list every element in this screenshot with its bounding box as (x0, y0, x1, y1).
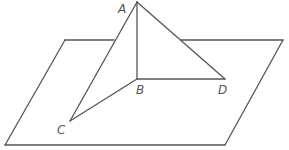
label-d: D (218, 83, 227, 97)
plane-right-edge (225, 40, 283, 145)
label-c: C (57, 123, 66, 137)
labels: A B C D (57, 2, 227, 137)
label-b: B (136, 83, 144, 97)
segment-ac (70, 2, 137, 121)
label-a: A (117, 2, 126, 16)
segments (70, 2, 225, 121)
diagram-svg: A B C D (0, 0, 289, 150)
diagram-canvas: A B C D (0, 0, 289, 150)
plane-left-edge (5, 40, 65, 145)
segment-bc (70, 79, 137, 121)
